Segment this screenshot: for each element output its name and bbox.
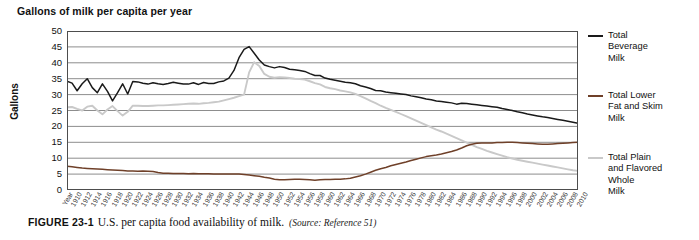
legend-label-line: Whole: [608, 175, 662, 186]
legend-color-swatch: [588, 157, 603, 159]
y-axis-tick-labels: 50454035302520151050: [36, 31, 62, 190]
figure-caption: FIGURE 23-1U.S. per capita food availabi…: [28, 216, 376, 228]
legend-color-swatch: [588, 35, 603, 37]
caption-figure-number: FIGURE 23-1: [28, 216, 94, 228]
caption-text: U.S. per capita food availability of mil…: [98, 216, 284, 228]
y-tick-label: 25: [38, 106, 62, 116]
y-tick-label: 0: [38, 185, 62, 195]
legend-label: TotalBeverageMilk: [608, 30, 648, 64]
legend-label-line: and Flavored: [608, 163, 662, 174]
legend-color-swatch: [588, 95, 603, 97]
figure-container: Gallons of milk per capita per year Gall…: [0, 0, 699, 240]
legend-label: Total Plainand FlavoredWholeMilk: [608, 152, 662, 198]
legend-label-line: Milk: [608, 53, 648, 64]
legend-label: Total LowerFat and SkimMilk: [608, 90, 663, 124]
legend-label-line: Milk: [608, 113, 663, 124]
y-tick-label: 20: [38, 121, 62, 131]
legend-label-line: Total: [608, 30, 648, 41]
y-axis-title: Gallons: [9, 72, 20, 132]
y-tick-label: 15: [38, 137, 62, 147]
legend-label-line: Total Lower: [608, 90, 663, 101]
legend-item[interactable]: Total Plainand FlavoredWholeMilk: [588, 152, 662, 198]
caption-source: (Source: Reference 51): [289, 218, 376, 228]
plot-area: [67, 31, 578, 190]
chart-svg: [67, 31, 578, 190]
legend-label-line: Beverage: [608, 41, 648, 52]
y-tick-label: 10: [38, 153, 62, 163]
legend-label-line: Fat and Skim: [608, 101, 663, 112]
legend-label-line: Milk: [608, 186, 662, 197]
y-tick-label: 35: [38, 74, 62, 84]
y-tick-label: 50: [38, 26, 62, 36]
y-tick-label: 40: [38, 58, 62, 68]
y-tick-label: 45: [38, 42, 62, 52]
legend-item[interactable]: Total LowerFat and SkimMilk: [588, 90, 663, 124]
chart-title: Gallons of milk per capita per year: [17, 5, 192, 17]
legend-label-line: Total Plain: [608, 152, 662, 163]
y-tick-label: 30: [38, 90, 62, 100]
legend-item[interactable]: TotalBeverageMilk: [588, 30, 648, 64]
y-tick-label: 5: [38, 169, 62, 179]
